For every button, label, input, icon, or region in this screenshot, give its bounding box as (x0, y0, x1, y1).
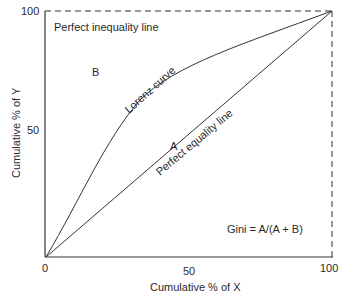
region-b-label: B (92, 66, 99, 78)
x-tick-50: 50 (183, 265, 195, 277)
x-tick-100: 100 (320, 262, 338, 274)
y-axis-label: Cumulative % of Y (10, 87, 22, 178)
x-axis-label: Cumulative % of X (150, 281, 241, 293)
lorenz-curve-label: Lorenz curve (122, 64, 177, 115)
y-tick-100: 100 (21, 5, 39, 17)
y-tick-50: 50 (27, 124, 39, 136)
x-tick-0: 0 (42, 262, 48, 274)
perfect-equality-label: Perfect equality line (154, 107, 235, 178)
gini-formula: Gini = A/(A + B) (227, 223, 303, 235)
perfect-inequality-label: Perfect inequality line (54, 21, 159, 33)
lorenz-diagram: Perfect inequality line B A Lorenz curve… (0, 0, 351, 302)
perfect-equality-line (46, 11, 332, 257)
